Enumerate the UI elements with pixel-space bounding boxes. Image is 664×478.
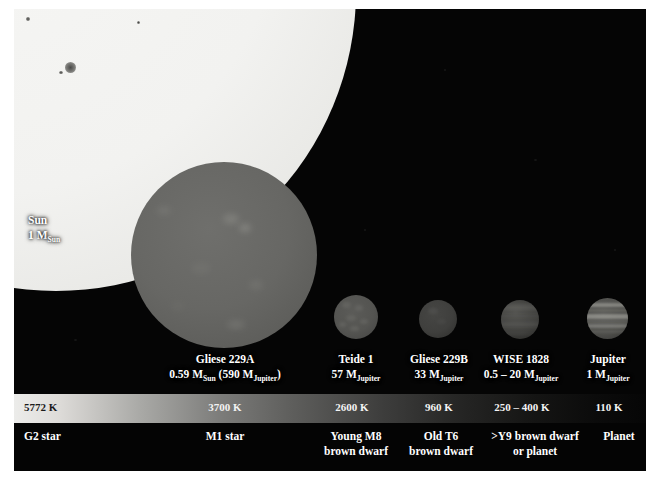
label-sun: Sun 1 MSun [28, 213, 60, 244]
surface-granule [350, 326, 359, 331]
temperature-label-wise-1828: 250 – 400 K [470, 401, 574, 413]
label-sun-mass: 1 MSun [28, 228, 60, 244]
celestial-body-wise-1828 [501, 300, 539, 339]
label-teide-1: Teide 1 57 MJupiter [317, 352, 395, 383]
background-speck [614, 249, 616, 251]
surface-granule [437, 319, 446, 324]
label-sun-name: Sun [28, 213, 60, 228]
label-jupiter-name: Jupiter [569, 352, 646, 367]
surface-mottle [223, 214, 239, 224]
cloud-band [501, 331, 539, 334]
celestial-body-teide-1 [334, 295, 378, 339]
background-speck [364, 229, 366, 231]
celestial-body-gliese-229b [419, 300, 457, 338]
label-teide-1-mass: 57 MJupiter [317, 367, 395, 383]
surface-granule [346, 315, 356, 321]
celestial-body-gliese-229a [131, 162, 317, 348]
cloud-band [587, 309, 628, 312]
surface-granule [355, 305, 363, 311]
classification-row: G2 star M1 star Young M8 brown dwarf Old… [14, 423, 646, 471]
surface-mottle [239, 224, 251, 232]
sky-panel: Sun 1 MSun Gliese 229A 0.59 MSun (590 MJ… [14, 9, 646, 394]
surface-mottle [171, 302, 185, 310]
cloud-band [501, 314, 539, 318]
label-jupiter-mass: 1 MJupiter [569, 367, 646, 383]
sunspot [59, 71, 63, 74]
label-jupiter: Jupiter 1 MJupiter [569, 352, 646, 383]
label-gliese-229b-name: Gliese 229B [399, 352, 479, 367]
surface-mottle [157, 206, 171, 215]
classification-gliese-229a: M1 star [170, 429, 280, 444]
cloud-band [587, 314, 628, 319]
cloud-band [587, 303, 628, 307]
classification-teide-1: Young M8 brown dwarf [314, 429, 398, 459]
surface-granule [342, 302, 351, 308]
temperature-label-jupiter: 110 K [570, 401, 646, 413]
classification-jupiter: Planet [584, 429, 646, 444]
background-speck [444, 69, 446, 71]
label-wise-1828: WISE 1828 0.5 – 20 MJupiter [479, 352, 563, 383]
temperature-label-sun: 5772 K [24, 401, 57, 413]
background-speck [74, 339, 77, 341]
surface-granule [428, 308, 438, 314]
surface-mottle [249, 280, 263, 290]
label-wise-1828-mass: 0.5 – 20 MJupiter [479, 367, 563, 383]
label-gliese-229a: Gliese 229A 0.59 MSun (590 MJupiter) [148, 352, 302, 383]
cloud-band [501, 305, 539, 310]
label-gliese-229a-mass: 0.59 MSun (590 MJupiter) [148, 367, 302, 383]
background-speck [534, 159, 537, 161]
cloud-band [587, 320, 628, 323]
label-wise-1828-name: WISE 1828 [479, 352, 563, 367]
surface-granule [339, 322, 346, 327]
temperature-label-teide-1: 2600 K [306, 401, 398, 413]
cloud-band [501, 322, 539, 327]
celestial-body-jupiter [587, 298, 628, 339]
label-teide-1-name: Teide 1 [317, 352, 395, 367]
sunspot [137, 21, 140, 24]
temperature-label-gliese-229a: 3700 K [170, 401, 280, 413]
classification-gliese-229b: Old T6 brown dwarf [398, 429, 484, 459]
cloud-band [587, 330, 628, 333]
classification-wise-1828: >Y9 brown dwarf or planet [480, 429, 590, 459]
sunspot [65, 62, 76, 73]
temperature-gradient-bar: 5772 K 3700 K 2600 K 960 K 250 – 400 K 1… [14, 394, 646, 423]
surface-mottle [227, 320, 245, 329]
sunspot [26, 17, 30, 21]
cloud-band [587, 324, 628, 328]
size-comparison-figure: Sun 1 MSun Gliese 229A 0.59 MSun (590 MJ… [14, 9, 646, 471]
label-gliese-229b-mass: 33 MJupiter [399, 367, 479, 383]
surface-mottle [191, 262, 211, 274]
label-gliese-229a-name: Gliese 229A [148, 352, 302, 367]
classification-sun: G2 star [24, 429, 61, 444]
surface-granule [360, 319, 368, 324]
label-gliese-229b: Gliese 229B 33 MJupiter [399, 352, 479, 383]
